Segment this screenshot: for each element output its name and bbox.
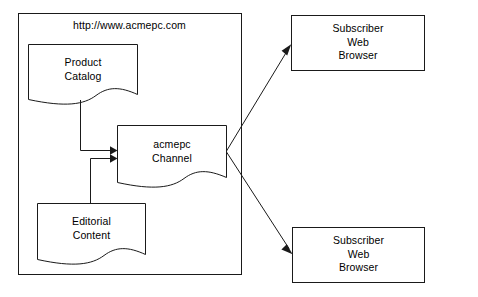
editorial-content-label: Editorial Content xyxy=(37,215,146,242)
edge-channel-to-subscriber-top xyxy=(227,50,289,152)
product-catalog-label: Product Catalog xyxy=(28,56,138,83)
edge-catalog-to-channel xyxy=(81,100,112,151)
subscriber-web-browser-bottom-label: Subscriber Web Browser xyxy=(292,234,425,275)
site-container-label: http://www.acmepc.com xyxy=(18,19,241,32)
edge-channel-to-subscriber-bottom-arrowhead xyxy=(281,244,292,254)
edge-channel-to-subscriber-top-arrowhead xyxy=(282,44,292,55)
diagram-canvas: http://www.acmepc.com Product Catalog ac… xyxy=(0,0,478,297)
subscriber-web-browser-top-label: Subscriber Web Browser xyxy=(291,22,425,63)
acmepc-channel-label: acmepc Channel xyxy=(117,138,227,165)
edge-channel-to-subscriber-bottom xyxy=(227,152,290,249)
edge-editorial-to-channel xyxy=(91,159,112,205)
